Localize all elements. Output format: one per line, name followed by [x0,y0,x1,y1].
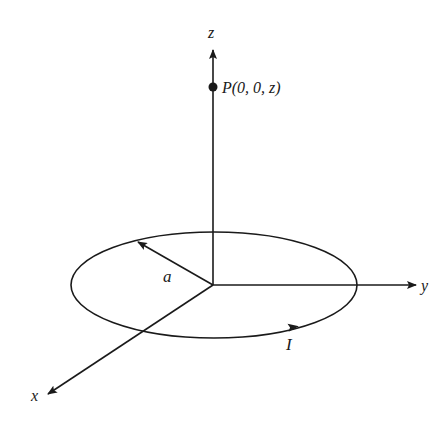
radius-vector: a [138,242,213,286]
field-point: P(0, 0, z) [209,79,281,97]
current-loop-diagram: z y x I a P(0, 0, z) [0,0,444,424]
current-direction-arrow-icon [288,322,300,331]
current-loop: I [71,232,357,354]
current-label: I [285,335,293,354]
x-axis: x [30,285,213,404]
point-p-label: P(0, 0, z) [221,79,281,97]
y-axis: y [213,277,429,295]
point-p-dot [209,83,218,92]
radius-label: a [163,267,172,286]
y-axis-label: y [419,277,429,295]
z-axis-label: z [207,24,215,41]
z-axis: z [207,24,215,285]
x-axis-label: x [30,387,38,404]
